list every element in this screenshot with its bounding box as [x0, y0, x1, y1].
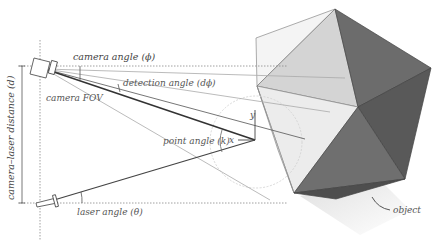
- icosahedron-object: [256, 9, 431, 199]
- laser-device: [36, 195, 58, 207]
- y-axis-label: y: [249, 110, 256, 120]
- point-angle-label: point angle (k): [163, 136, 230, 146]
- x-axis-label: x: [229, 135, 234, 145]
- detection-angle-label: detection angle (dϕ): [123, 78, 216, 88]
- detection-angle-tick: [118, 84, 120, 92]
- camera-angle-label: camera angle (ϕ): [73, 51, 156, 62]
- distance-bracket: [19, 66, 25, 203]
- object-label: object: [393, 205, 421, 215]
- camera-device: [30, 58, 57, 78]
- camera-laser-distance-label: camera–laser distance (d): [5, 75, 16, 200]
- triangulation-diagram: camera angle (ϕ) detection angle (dϕ) ca…: [0, 0, 438, 241]
- laser-angle-arc: [81, 192, 82, 203]
- laser-beam: [44, 140, 255, 203]
- camera-fov-label: camera FOV: [46, 93, 104, 103]
- laser-angle-label: laser angle (θ): [77, 207, 143, 217]
